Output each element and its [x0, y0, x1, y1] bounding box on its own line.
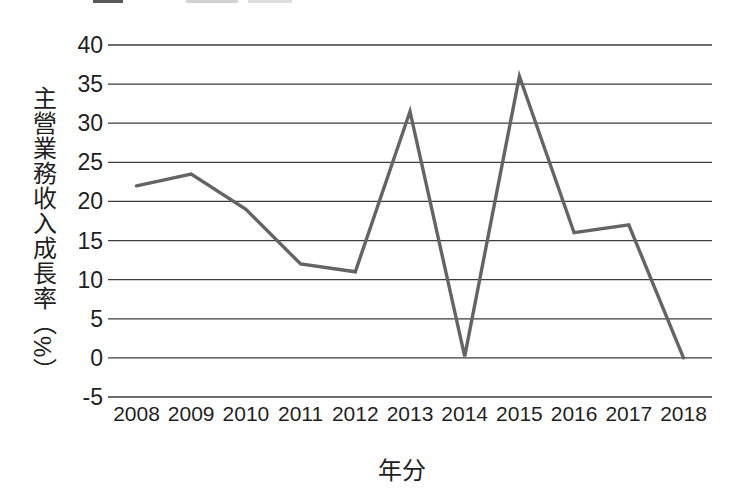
y-tick-label: 10: [77, 267, 103, 293]
x-tick-label: 2018: [660, 402, 707, 425]
y-tick-label: 30: [77, 110, 103, 136]
x-tick-label: 2014: [441, 402, 488, 425]
line-chart-figure: 主營業務收入成長率（%） 4035302520151050-5200820092…: [0, 0, 748, 495]
y-tick-label: 40: [77, 32, 103, 58]
x-tick-label: 2008: [113, 402, 160, 425]
x-tick-label: 2016: [551, 402, 598, 425]
x-axis-title: 年分: [378, 451, 426, 486]
y-tick-label: 20: [77, 188, 103, 214]
y-tick-label: 0: [90, 345, 103, 371]
x-tick-label: 2012: [332, 402, 379, 425]
x-tick-label: 2017: [605, 402, 652, 425]
x-tick-label: 2009: [168, 402, 215, 425]
x-tick-label: 2010: [223, 402, 270, 425]
y-tick-label: -5: [83, 384, 103, 410]
plot-area: 4035302520151050-52008200920102011201220…: [0, 0, 748, 495]
x-tick-label: 2013: [387, 402, 434, 425]
series-line: [137, 76, 684, 358]
y-tick-label: 15: [77, 228, 103, 254]
y-tick-label: 5: [90, 306, 103, 332]
y-tick-label: 25: [77, 149, 103, 175]
x-tick-label: 2011: [278, 402, 323, 425]
y-tick-label: 35: [77, 71, 103, 97]
x-tick-label: 2015: [496, 402, 543, 425]
